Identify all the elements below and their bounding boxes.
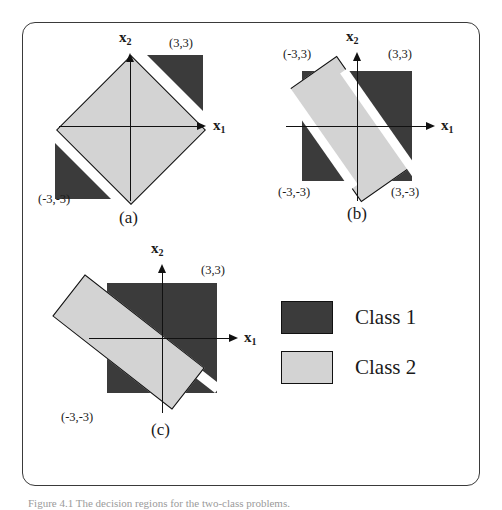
panel-c-y-axis	[162, 273, 163, 413]
panel-c-tag: (c)	[151, 421, 170, 438]
panel-a-y-axis	[130, 62, 131, 201]
figure-frame: x1 x2 (3,3) (-3,-3) (a) x1 x	[22, 22, 480, 486]
panel-b-y-axis-arrow	[353, 52, 361, 61]
panel-c: x1 x2 (3,3) (-3,-3) (c)	[51, 238, 281, 453]
panel-a-y-axis-label-text: x	[119, 29, 127, 45]
legend-swatch-class1	[281, 301, 333, 334]
panel-c-x-axis	[89, 338, 229, 339]
panel-b-x-axis-arrow	[426, 122, 435, 130]
legend-item-class2: Class 2	[281, 351, 416, 384]
legend-label-class1: Class 1	[355, 307, 416, 328]
panel-b-y-axis-label: x2	[346, 29, 359, 46]
panel-c-y-axis-label-sub: 2	[159, 247, 164, 258]
panel-b-coord-upper-right: (3,3)	[388, 48, 412, 61]
panel-a-x-axis	[59, 126, 197, 127]
panel-a-y-axis-label-sub: 2	[127, 36, 132, 47]
panel-b-coord-lower-right: (3,-3)	[391, 186, 419, 199]
panel-a-coord-upper-right: (3,3)	[169, 37, 193, 50]
panel-b-x-axis-label-sub: 1	[449, 124, 454, 135]
panel-b-x-axis	[286, 126, 426, 127]
panel-b-x-axis-label-text: x	[441, 117, 449, 133]
panel-b-x-axis-label: x1	[441, 118, 454, 135]
panel-b-y-axis-label-sub: 2	[354, 35, 359, 46]
panel-c-x-axis-label-text: x	[244, 329, 252, 345]
panel-a-x-axis-arrow	[197, 122, 206, 130]
legend-label-class2: Class 2	[355, 357, 416, 378]
panel-a-y-axis-label: x2	[119, 30, 132, 47]
panel-b-coord-upper-left: (-3,3)	[283, 48, 311, 61]
panel-b-tag: (b)	[347, 205, 367, 222]
panel-b-coord-lower-left: (-3,-3)	[278, 186, 310, 199]
panel-b-y-axis-label-text: x	[346, 28, 354, 44]
panel-c-y-axis-label: x2	[151, 241, 164, 258]
panel-a-y-axis-arrow	[126, 53, 134, 62]
panel-a: x1 x2 (3,3) (-3,-3) (a)	[23, 23, 253, 233]
panel-c-x-axis-arrow	[229, 334, 238, 342]
legend-item-class1: Class 1	[281, 301, 416, 334]
panel-c-y-axis-label-text: x	[151, 240, 159, 256]
panel-c-coord-upper-right: (3,3)	[201, 264, 225, 277]
legend-swatch-class2	[281, 351, 333, 384]
panel-a-x-axis-label-text: x	[213, 117, 221, 133]
figure-caption: Figure 4.1 The decision regions for the …	[28, 497, 478, 510]
panel-b-y-axis	[357, 61, 358, 201]
panel-a-coord-lower-left: (-3,-3)	[38, 193, 70, 206]
panel-c-x-axis-label-sub: 1	[252, 336, 257, 347]
panel-a-x-axis-label-sub: 1	[221, 124, 226, 135]
panel-c-y-axis-arrow	[158, 264, 166, 273]
panel-a-tag: (a)	[119, 209, 138, 226]
panel-c-x-axis-label: x1	[244, 330, 257, 347]
legend: Class 1 Class 2	[281, 301, 476, 396]
panel-a-x-axis-label: x1	[213, 118, 226, 135]
panel-b: x1 x2 (-3,3) (3,3) (-3,-3) (3,-3) (b)	[253, 23, 481, 233]
panel-c-coord-lower-left: (-3,-3)	[61, 411, 93, 424]
